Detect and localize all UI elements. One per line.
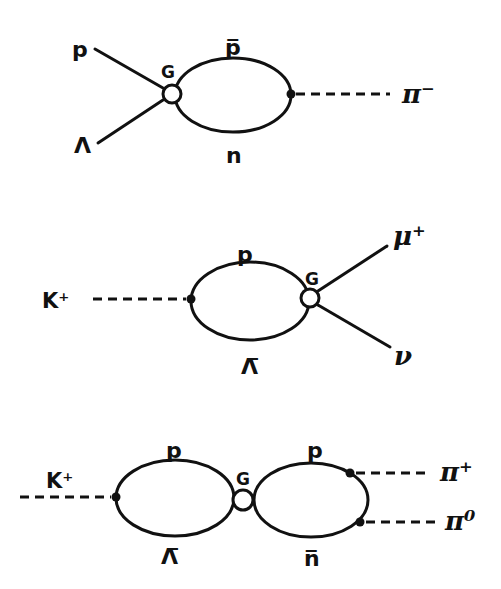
- strong-vertex: [287, 90, 296, 99]
- weak-vertex-g: [301, 289, 319, 307]
- diagram-1: p Λ G p̅ n π⁻: [72, 35, 435, 168]
- strong-vertex-pi-zero: [356, 518, 365, 527]
- label-lambda: Λ: [74, 133, 91, 158]
- neutrino-line: [318, 305, 390, 347]
- lambda-line: [98, 100, 163, 143]
- loop: [191, 262, 309, 340]
- label-lambda-bar: Λ̅: [161, 544, 178, 569]
- strong-vertex-pi-plus: [346, 469, 355, 478]
- label-p: p: [237, 242, 253, 267]
- muon-line: [318, 246, 387, 291]
- diagram-3: K⁺ p Λ̅ G p n̅ π⁺ π⁰: [20, 438, 476, 571]
- label-mu-plus: μ⁺: [393, 221, 426, 251]
- label-g: G: [236, 469, 250, 489]
- label-k-plus: K⁺: [46, 469, 73, 493]
- label-g: G: [305, 269, 319, 289]
- label-p-left: p: [166, 438, 182, 463]
- proton-line: [95, 49, 163, 88]
- label-g: G: [161, 62, 175, 82]
- label-p: p: [72, 37, 88, 62]
- label-pi-minus: π⁻: [401, 79, 435, 109]
- feynman-diagrams: p Λ G p̅ n π⁻ K⁺ p Λ̅ G μ⁺ ν K⁺ p Λ̅ G p: [0, 0, 501, 589]
- label-nu: ν: [394, 341, 412, 371]
- label-n-bar: n̅: [304, 546, 320, 571]
- strong-vertex: [187, 295, 196, 304]
- label-n: n: [226, 143, 242, 168]
- strong-vertex-left: [112, 493, 121, 502]
- left-loop: [116, 460, 234, 536]
- label-p-right: p: [307, 438, 323, 463]
- loop: [175, 58, 291, 132]
- label-pi-plus: π⁺: [439, 457, 473, 487]
- weak-vertex-g: [233, 490, 253, 510]
- label-k-plus: K⁺: [42, 289, 69, 313]
- diagram-2: K⁺ p Λ̅ G μ⁺ ν: [42, 221, 426, 379]
- label-pi-zero: π⁰: [444, 506, 476, 536]
- label-lambda-bar: Λ̅: [241, 354, 258, 379]
- weak-vertex-g: [163, 85, 181, 103]
- label-pbar: p̅: [225, 35, 241, 60]
